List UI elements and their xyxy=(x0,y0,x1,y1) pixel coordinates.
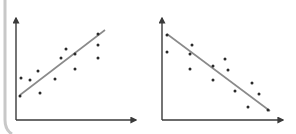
data-point xyxy=(191,44,194,47)
scatter-chart-positive xyxy=(16,18,136,120)
data-point xyxy=(234,90,237,93)
data-point xyxy=(74,68,77,71)
data-point xyxy=(65,48,68,51)
data-point xyxy=(19,95,22,98)
data-point xyxy=(166,51,169,54)
data-point xyxy=(267,109,270,112)
data-point xyxy=(212,79,215,82)
data-point xyxy=(39,92,42,95)
data-point xyxy=(247,106,250,109)
data-point xyxy=(212,65,215,68)
data-point xyxy=(97,57,100,60)
data-point xyxy=(74,53,77,56)
scatter-plots xyxy=(0,0,296,134)
data-point xyxy=(258,93,261,96)
data-point xyxy=(189,68,192,71)
data-point xyxy=(97,33,100,36)
data-point xyxy=(97,44,100,47)
figure-canvas xyxy=(0,0,296,134)
data-point xyxy=(60,57,63,60)
data-point xyxy=(29,79,32,82)
data-point xyxy=(251,82,254,85)
data-point xyxy=(224,58,227,61)
trend-line xyxy=(20,30,105,95)
data-point xyxy=(189,53,192,56)
data-point xyxy=(227,69,230,72)
scatter-chart-negative xyxy=(162,18,283,120)
data-point xyxy=(166,34,169,37)
data-point xyxy=(37,70,40,73)
data-point xyxy=(54,78,57,81)
trend-line xyxy=(167,34,270,111)
data-point xyxy=(20,77,23,80)
